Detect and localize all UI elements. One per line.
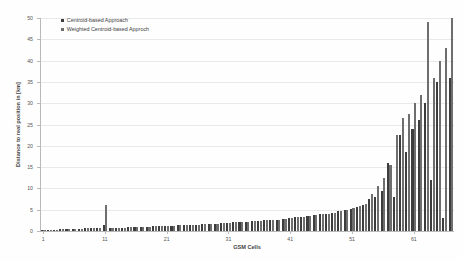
x-tick-label: 41 bbox=[287, 236, 293, 242]
bars-layer bbox=[40, 18, 454, 231]
bar-group bbox=[448, 18, 454, 231]
legend-swatch-icon bbox=[61, 28, 64, 31]
plot-area bbox=[40, 18, 454, 231]
x-tick-mark bbox=[167, 231, 168, 234]
y-tick-label: 5 bbox=[30, 207, 33, 213]
bar-chart: 05101520253035404550 1112131415161 Dista… bbox=[0, 0, 463, 262]
x-tick-mark bbox=[414, 231, 415, 234]
x-axis-title: GSM Cells bbox=[40, 244, 454, 250]
x-tick-mark bbox=[290, 231, 291, 234]
y-tick-label: 40 bbox=[27, 58, 33, 64]
y-tick-label: 30 bbox=[27, 100, 33, 106]
y-tick-label: 50 bbox=[27, 15, 33, 21]
y-tick-label: 45 bbox=[27, 36, 33, 42]
x-tick-label: 31 bbox=[226, 236, 232, 242]
x-axis-line bbox=[40, 231, 454, 232]
legend-swatch-icon bbox=[61, 19, 64, 22]
x-tick-mark bbox=[43, 231, 44, 234]
legend-item-centroid: Centroid-based Approach bbox=[61, 16, 149, 25]
y-axis-title: Distance to real position in [km] bbox=[12, 18, 24, 231]
y-tick-label: 20 bbox=[27, 143, 33, 149]
y-tick-label: 35 bbox=[27, 79, 33, 85]
y-tick-label: 25 bbox=[27, 122, 33, 128]
legend-item-weighted-centroid: Weighted Centroid-based Approch bbox=[61, 25, 149, 34]
legend-label: Centroid-based Approach bbox=[67, 16, 128, 25]
chart-legend: Centroid-based Approach Weighted Centroi… bbox=[61, 16, 149, 34]
y-tick-label: 0 bbox=[30, 228, 33, 234]
x-tick-label: 21 bbox=[164, 236, 170, 242]
y-tick-label: 10 bbox=[27, 185, 33, 191]
x-tick-mark bbox=[228, 231, 229, 234]
x-tick-mark bbox=[352, 231, 353, 234]
x-tick-label: 1 bbox=[42, 236, 45, 242]
x-tick-mark bbox=[105, 231, 106, 234]
x-tick-label: 51 bbox=[349, 236, 355, 242]
x-tick-label: 61 bbox=[411, 236, 417, 242]
x-tick-label: 11 bbox=[102, 236, 107, 242]
y-tick-label: 15 bbox=[27, 164, 33, 170]
legend-label: Weighted Centroid-based Approch bbox=[67, 25, 149, 34]
bar bbox=[451, 18, 453, 231]
